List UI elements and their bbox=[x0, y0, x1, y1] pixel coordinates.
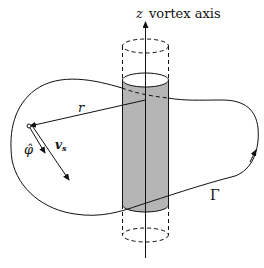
axis-label-text: vortex axis bbox=[148, 6, 221, 21]
phi-hat-label: φ̂ bbox=[24, 142, 34, 157]
field-point bbox=[27, 124, 31, 128]
contour-label-gamma: Γ bbox=[210, 187, 220, 203]
velocity-vector bbox=[33, 127, 69, 180]
radius-label: r bbox=[78, 100, 85, 115]
vortex-diagram: z vortex axis r φ̂ vs Γ bbox=[0, 0, 264, 268]
velocity-label: vs bbox=[55, 138, 67, 153]
axis-label-z: z bbox=[135, 6, 143, 21]
